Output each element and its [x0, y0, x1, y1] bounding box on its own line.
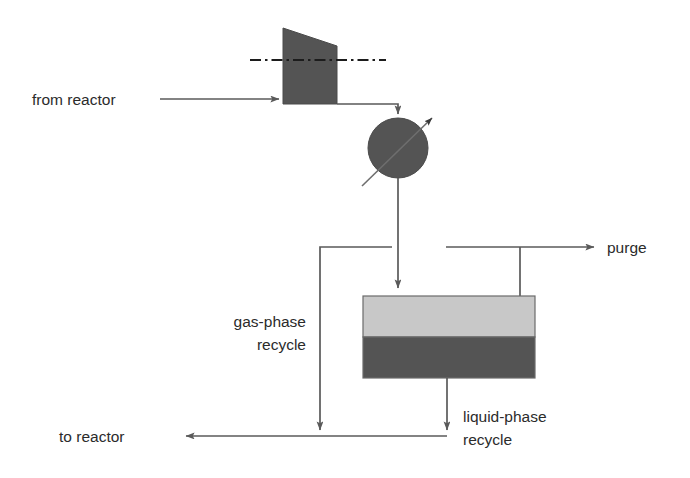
- label-purge: purge: [607, 239, 647, 256]
- valve-body: [368, 118, 428, 178]
- separator-gas-phase-region: [363, 296, 535, 337]
- compressor: [250, 28, 386, 104]
- label-to-reactor: to reactor: [59, 428, 124, 445]
- separator-vessel: [363, 296, 535, 378]
- label-from-reactor: from reactor: [32, 91, 116, 108]
- valve: [362, 118, 432, 186]
- compressor-body: [283, 28, 337, 104]
- flowsheet-canvas: from reactor purge gas-phase recycle liq…: [0, 0, 690, 478]
- label-liquid-phase-recycle-line1: liquid-phase: [463, 408, 547, 425]
- compressor-to-valve-line: [337, 104, 398, 114]
- process-flow-diagram: from reactor purge gas-phase recycle liq…: [0, 0, 690, 478]
- separator-liquid-phase-region: [363, 337, 535, 378]
- label-liquid-phase-recycle-line2: recycle: [463, 431, 512, 448]
- stream-compressor-discharge: [337, 104, 398, 114]
- label-gas-phase-recycle-line1: gas-phase: [234, 313, 306, 330]
- label-gas-phase-recycle-line2: recycle: [257, 336, 306, 353]
